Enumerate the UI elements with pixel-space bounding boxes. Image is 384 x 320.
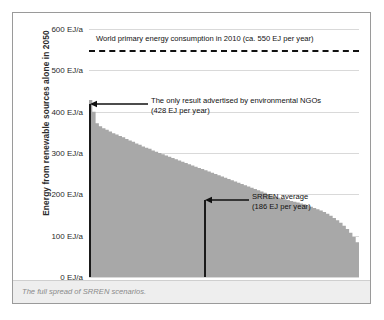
y-tick-label-100: 100 EJ/a [51,231,83,240]
srren-average-marker-line [204,200,206,277]
srren-average-annotation-line1: SRREN average [252,192,311,202]
ngo-result-annotation: The only result advertised by environmen… [151,96,321,116]
figure-container: Energy from renewable sources alone in 2… [12,12,371,304]
srren-average-annotation-line2: (186 EJ per year) [252,202,311,212]
world-consumption-label: World primary energy consumption in 2010… [96,34,314,43]
y-tick-label-500: 500 EJ/a [51,66,83,75]
y-axis-title: Energy from renewable sources alone in 2… [41,23,51,223]
ngo-result-marker-line [89,104,91,278]
ngo-result-arrow-icon [90,99,148,109]
y-tick-label-400: 400 EJ/a [51,107,83,116]
srren-average-annotation: SRREN average (186 EJ per year) [252,192,311,212]
y-tick-label-600: 600 EJ/a [51,25,83,34]
figure-caption: The full spread of SRREN scenarios. [22,287,146,296]
scenario-area-series [89,29,359,277]
gridline-0 [89,277,359,278]
y-tick-label-300: 300 EJ/a [51,149,83,158]
plot-area: 600 EJ/a 500 EJ/a 400 EJ/a 300 EJ/a 200 … [89,29,359,277]
ngo-result-annotation-line1: The only result advertised by environmen… [151,96,321,106]
y-tick-label-200: 200 EJ/a [51,190,83,199]
caption-band: The full spread of SRREN scenarios. [13,280,370,303]
ngo-result-annotation-line2: (428 EJ per year) [151,106,321,116]
srren-average-arrow-icon [205,195,249,205]
world-consumption-reference-line [89,50,359,52]
